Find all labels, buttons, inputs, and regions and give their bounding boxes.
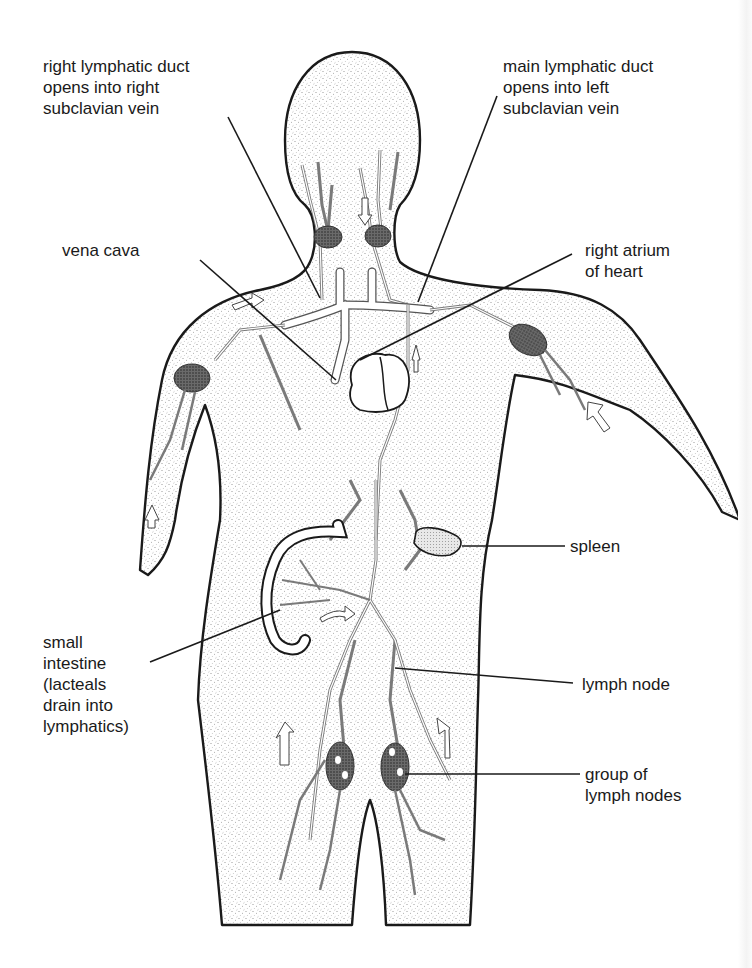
label-line: right lymphatic duct — [43, 56, 189, 77]
lymphatic-system-diagram — [0, 0, 752, 968]
label-line: main lymphatic duct — [503, 56, 653, 77]
label-line: lymphatics) — [43, 716, 129, 737]
label-line: group of — [585, 764, 681, 785]
heart — [350, 354, 409, 412]
label-line: lymph nodes — [585, 785, 681, 806]
label-lymph-node: lymph node — [582, 674, 670, 695]
label-right-lymphatic-duct: right lymphatic duct opens into right su… — [43, 56, 189, 119]
lymph-node-group-inguinal-left — [381, 743, 409, 791]
label-vena-cava: vena cava — [62, 240, 140, 261]
label-line: vena cava — [62, 240, 140, 261]
label-line: spleen — [570, 536, 620, 557]
label-right-atrium: right atrium of heart — [585, 240, 670, 282]
label-line: right atrium — [585, 240, 670, 261]
label-line: intestine — [43, 653, 129, 674]
lymph-node-group-axillary-right — [174, 364, 210, 392]
label-line: opens into left — [503, 77, 653, 98]
label-line: opens into right — [43, 77, 189, 98]
lymph-node-neck-right — [314, 226, 342, 248]
flow-arrow-icon — [587, 402, 610, 432]
lymph-node-group-inguinal-right — [326, 742, 354, 790]
lymph-node-neck-left — [365, 225, 391, 247]
label-line: small — [43, 632, 129, 653]
label-line: subclavian vein — [503, 98, 653, 119]
label-main-lymphatic-duct: main lymphatic duct opens into left subc… — [503, 56, 653, 119]
label-line: lymph node — [582, 674, 670, 695]
label-group-of-lymph-nodes: group of lymph nodes — [585, 764, 681, 806]
label-spleen: spleen — [570, 536, 620, 557]
label-line: subclavian vein — [43, 98, 189, 119]
page-edge — [738, 0, 752, 968]
label-line: (lacteals — [43, 674, 129, 695]
label-small-intestine: small intestine (lacteals drain into lym… — [43, 632, 129, 737]
label-line: drain into — [43, 695, 129, 716]
label-line: of heart — [585, 261, 670, 282]
